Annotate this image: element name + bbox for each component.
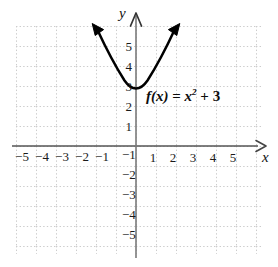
equation-base: x [185, 88, 193, 104]
y-tick-label-2: 2 [112, 100, 132, 113]
x-tick-label--2: −2 [74, 150, 90, 163]
y-tick-label-4: 4 [112, 60, 132, 73]
equation-function-name: f(x) [146, 88, 169, 104]
x-tick-label-2: 2 [168, 151, 178, 164]
x-tick-label-4: 4 [208, 151, 218, 164]
y-tick-label--2: −2 [122, 168, 144, 181]
x-tick-label--3: −3 [54, 150, 70, 163]
y-axis-label: y [119, 6, 126, 21]
equation-plus: + [197, 88, 213, 104]
x-axis-label: x [262, 150, 269, 165]
y-tick-label--3: −3 [122, 188, 144, 201]
x-tick-label--1: −1 [94, 150, 110, 163]
parabola-right-arrowhead [168, 24, 179, 36]
x-tick-label-5: 5 [228, 151, 238, 164]
y-tick-label--4: −4 [122, 208, 144, 221]
x-tick-label--4: −4 [34, 150, 50, 163]
x-tick-label--5: −5 [14, 150, 30, 163]
y-tick-label-1: 1 [112, 120, 132, 133]
equation-constant: 3 [213, 88, 221, 104]
axes-group [12, 13, 266, 258]
x-tick-label-3: 3 [188, 151, 198, 164]
graph-figure: −5 −4 −3 −2 −1 1 2 3 4 5 5 4 3 2 1 −1 −2… [0, 0, 278, 267]
parabola-left-arrowhead [92, 24, 103, 36]
equation-equals: = [169, 88, 185, 104]
y-tick-label-5: 5 [112, 40, 132, 53]
y-tick-label--5: −5 [122, 228, 144, 241]
x-tick-label-1: 1 [148, 151, 158, 164]
y-tick-label--1: −1 [122, 148, 144, 161]
y-tick-label-3: 3 [112, 80, 132, 93]
plot-layer [0, 0, 278, 267]
function-equation-label: f(x) = x2 + 3 [146, 88, 220, 104]
